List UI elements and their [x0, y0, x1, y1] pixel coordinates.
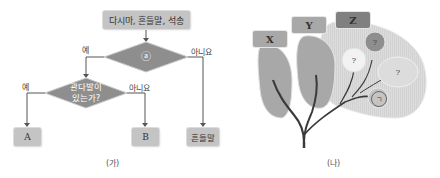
- tree-graphic: [0, 0, 440, 178]
- unknown-node-3: ?: [392, 66, 404, 78]
- unknown-node-2: ?: [369, 36, 381, 48]
- tag-x: X: [253, 31, 287, 47]
- tag-x-label: X: [266, 34, 274, 45]
- tag-y-label: Y: [305, 20, 312, 31]
- unknown-node-1: ?: [348, 54, 360, 66]
- marked-node-giyeok: ㄱ: [371, 91, 387, 107]
- tree-caption: (나): [327, 157, 340, 168]
- tag-z: Z: [336, 12, 370, 28]
- marked-node-label: ㄱ: [376, 94, 382, 104]
- tag-z-label: Z: [349, 15, 356, 26]
- tag-y: Y: [292, 17, 326, 33]
